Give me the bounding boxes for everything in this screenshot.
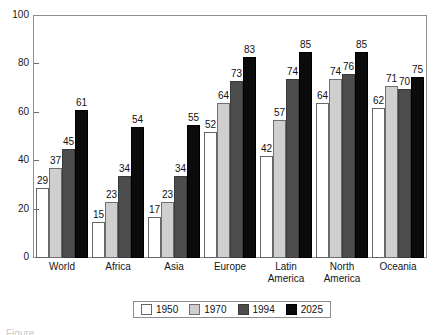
bar (342, 74, 355, 258)
bar (411, 77, 424, 259)
bars-container: 2937456115233454172334555264738342577485… (34, 16, 426, 258)
bar (75, 110, 88, 258)
bar (230, 81, 243, 258)
bar (36, 188, 49, 258)
legend-item: 1950 (141, 304, 178, 315)
bar-group: 64747685 (314, 16, 370, 258)
y-axis-tick-mark (34, 209, 39, 210)
bar (273, 120, 286, 258)
y-axis-tick-label: 20 (18, 204, 29, 214)
bar-group: 52647383 (202, 16, 258, 258)
bar-group: 17233455 (146, 16, 202, 258)
x-axis-category-labels: WorldAfricaAsiaEuropeLatin AmericaNorth … (34, 261, 426, 293)
x-axis-category-label: World (34, 261, 90, 273)
y-axis-tick-label: 60 (18, 107, 29, 117)
bar (105, 202, 118, 258)
bar (131, 127, 144, 258)
bar-group: 62717075 (370, 16, 426, 258)
y-axis-tick-mark (34, 63, 39, 64)
x-axis-category-label: Africa (90, 261, 146, 273)
y-axis-tick-mark (34, 112, 39, 113)
bar (62, 149, 75, 258)
y-axis-tick-label: 0 (23, 252, 29, 262)
bar-group: 15233454 (90, 16, 146, 258)
bar (286, 79, 299, 258)
legend-label: 1994 (253, 305, 275, 315)
x-axis-category-label: Europe (202, 261, 258, 273)
bar (316, 103, 329, 258)
legend-item: 2025 (286, 304, 323, 315)
y-axis: 020406080100 (0, 15, 29, 258)
y-axis-tick-label: 40 (18, 155, 29, 165)
bar (148, 217, 161, 258)
x-axis-category-label: Latin America (258, 261, 314, 285)
x-axis-category-label: Oceania (370, 261, 426, 273)
bar (187, 125, 200, 258)
chart-legend: 1950197019942025 (133, 301, 331, 318)
y-axis-tick-label: 80 (18, 58, 29, 68)
bar (385, 86, 398, 258)
bar (243, 57, 256, 258)
legend-swatch (189, 304, 200, 315)
x-axis-category-label: Asia (146, 261, 202, 273)
legend-label: 2025 (301, 305, 323, 315)
legend-swatch (238, 304, 249, 315)
figure-bar-chart: 020406080100 293745611523345417233455526… (0, 0, 440, 335)
y-axis-tick-label: 100 (12, 10, 29, 20)
legend-swatch (141, 304, 152, 315)
bar (92, 222, 105, 258)
bar (161, 202, 174, 258)
bar (217, 103, 230, 258)
legend-label: 1950 (156, 305, 178, 315)
bar (355, 52, 368, 258)
bar (398, 89, 411, 258)
bar-group: 42577485 (258, 16, 314, 258)
x-axis-category-label: North America (314, 261, 370, 285)
bar (299, 52, 312, 258)
y-axis-tick-mark (34, 160, 39, 161)
bar (204, 132, 217, 258)
figure-caption: Figure (6, 328, 306, 335)
legend-item: 1970 (189, 304, 226, 315)
bar (260, 156, 273, 258)
bar (372, 108, 385, 258)
bar (329, 79, 342, 258)
bar-group: 29374561 (34, 16, 90, 258)
legend-item: 1994 (238, 304, 275, 315)
bar-value-label: 75 (407, 65, 429, 75)
bar (174, 176, 187, 258)
legend-swatch (286, 304, 297, 315)
legend-label: 1970 (204, 305, 226, 315)
bar (49, 168, 62, 258)
bar (118, 176, 131, 258)
